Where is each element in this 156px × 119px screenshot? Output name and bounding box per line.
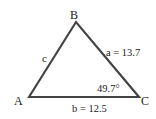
vertex-b-label: B (70, 8, 78, 22)
side-a-label: a = 13.7 (106, 47, 140, 58)
vertex-a-label: A (14, 94, 23, 108)
side-b-label: b = 12.5 (72, 103, 107, 114)
angle-c-label: 49.7° (97, 83, 120, 94)
side-c-label: c (42, 52, 47, 64)
vertex-c-label: C (141, 94, 149, 108)
triangle-diagram: B A C c a = 13.7 b = 12.5 49.7° (0, 0, 156, 119)
